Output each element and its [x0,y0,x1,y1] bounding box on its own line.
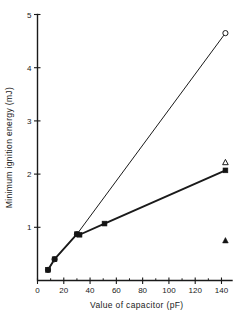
y-tick-label: 4 [27,64,32,73]
tick-labels: 12345020406080100120140 [27,11,229,296]
axes [38,15,233,281]
y-axis-title: Minimum ignition energy (mJ) [4,87,14,208]
y-tick-label: 1 [27,223,32,232]
x-tick-label: 20 [59,286,68,295]
y-tick-label: 3 [27,117,32,126]
axis-spine [38,15,233,281]
series-line-lower-branch [48,170,225,269]
y-tick-label: 5 [27,11,32,20]
x-tick-label: 140 [215,286,229,295]
chart-figure: 12345020406080100120140 Value of capacit… [0,0,241,319]
marker-filled-square [77,232,82,237]
marker-open-triangle [223,159,229,164]
x-tick-label: 40 [86,286,95,295]
marker-filled-square [46,267,51,272]
marker-filled-square [223,168,228,173]
series-markers-open-triangle-points [223,159,229,164]
y-tick-label: 2 [27,170,32,179]
x-tick-label: 120 [189,286,203,295]
x-tick-label: 80 [138,286,147,295]
marker-filled-square [52,257,57,262]
x-tick-label: 0 [35,286,40,295]
marker-open-circle [223,31,228,36]
marker-filled-square [102,221,107,226]
series-markers-filled-triangle-points [223,238,229,243]
x-axis-title: Value of capacitor (pF) [90,300,183,310]
data-series [45,31,228,273]
series-markers-lower-branch [46,168,228,272]
x-tick-label: 100 [162,286,176,295]
x-tick-label: 60 [112,286,121,295]
marker-filled-triangle [223,238,229,243]
scatter-plot: 12345020406080100120140 Value of capacit… [0,0,241,319]
tick-marks [34,15,221,285]
